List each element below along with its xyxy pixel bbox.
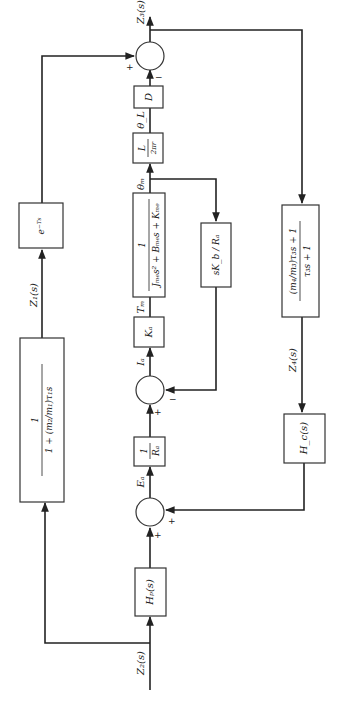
hc-to-sum1-line — [166, 463, 304, 510]
delay-label: e⁻ᵀˢ — [36, 218, 46, 235]
plant-denominator: Jₘₑs² + Bₘₑs + Kₘₑ — [151, 203, 161, 289]
gear-numerator: L — [137, 145, 147, 152]
ea-signal-label: Eₐ — [135, 476, 146, 488]
sum2-right-sign: − — [169, 394, 177, 404]
inv-ra-numerator: 1 — [139, 448, 149, 454]
hc-label: H_c(s) — [298, 422, 310, 455]
z4-numerator: (m₄/m₃)τ₃s + 1 — [288, 228, 298, 295]
theta-l-signal-label: θ_L — [135, 111, 147, 129]
sum-junction-3 — [136, 42, 164, 70]
z1-numerator: 1 — [30, 417, 40, 423]
sum-junction-1 — [136, 498, 164, 526]
d-label: D — [143, 93, 154, 102]
z2-branch-line — [45, 503, 150, 643]
sum1-right-sign: + — [168, 516, 176, 526]
back-emf-label: sK_b / Rₐ — [211, 235, 222, 276]
gear-denominator: 2πr — [150, 141, 158, 155]
ia-signal-label: Iₐ — [135, 358, 146, 367]
z3-branch-line — [150, 30, 302, 203]
plant-numerator: 1 — [137, 242, 147, 248]
z3-signal-label: Z₃(s) — [135, 0, 146, 25]
delay-to-sum3-line — [42, 56, 134, 203]
z4-denominator: τ₃s + 1 — [302, 245, 312, 277]
sum-junction-2 — [136, 376, 164, 404]
inv-ra-denominator: Rₐ — [151, 446, 161, 457]
z1-signal-label: Z₁(s) — [28, 283, 39, 308]
sum1-bottom-sign: + — [154, 530, 162, 540]
z4-signal-label: Z₄(s) — [287, 348, 298, 373]
sum2-bottom-sign: + — [154, 407, 162, 417]
z2-signal-label: Z₂(s) — [135, 651, 146, 676]
block-diagram: Hₚ(s) 1 Rₐ Kₐ 1 Jₘₑs² + Bₘₑs + Kₘₑ L 2πr… — [0, 0, 345, 703]
sum3-left-sign: + — [126, 62, 134, 72]
ka-label: Kₐ — [143, 326, 154, 338]
back-emf-feedback-line — [166, 287, 216, 390]
theta-m-signal-label: θₘ — [135, 178, 146, 190]
z1-denominator: 1 + (m₂/m₁)τ₁s — [44, 386, 54, 453]
sum3-bottom-sign: − — [155, 72, 163, 82]
hp-label: Hₚ(s) — [144, 579, 155, 606]
tm-signal-label: Tₘ — [135, 301, 146, 314]
